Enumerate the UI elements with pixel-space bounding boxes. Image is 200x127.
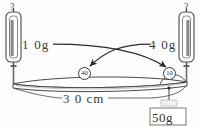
left-mass-label: 1 0g xyxy=(22,38,50,51)
beam-board xyxy=(13,77,187,92)
left-gauge-reading-label: ? xyxy=(10,2,14,12)
diagram-vector-layer xyxy=(0,0,200,127)
hanging-weight-label: 50g xyxy=(152,111,173,124)
left-marker-value: 40 xyxy=(78,70,91,77)
weight-hanger-plate xyxy=(161,100,177,106)
right-spring-scale xyxy=(179,8,194,85)
beam-length-label: 3 0 cm xyxy=(63,92,104,105)
right-gauge-reading-label: ? xyxy=(184,2,188,12)
right-mass-label: 4 0g xyxy=(149,38,177,51)
right-marker-value: 10 xyxy=(163,70,176,77)
left-spring-scale xyxy=(6,8,21,85)
right-gauge-indicator xyxy=(186,20,189,56)
physics-diagram-canvas: ? ? 1 0g 4 0g 40 10 3 0 cm 50g xyxy=(0,0,200,127)
left-gauge-indicator xyxy=(11,20,14,56)
